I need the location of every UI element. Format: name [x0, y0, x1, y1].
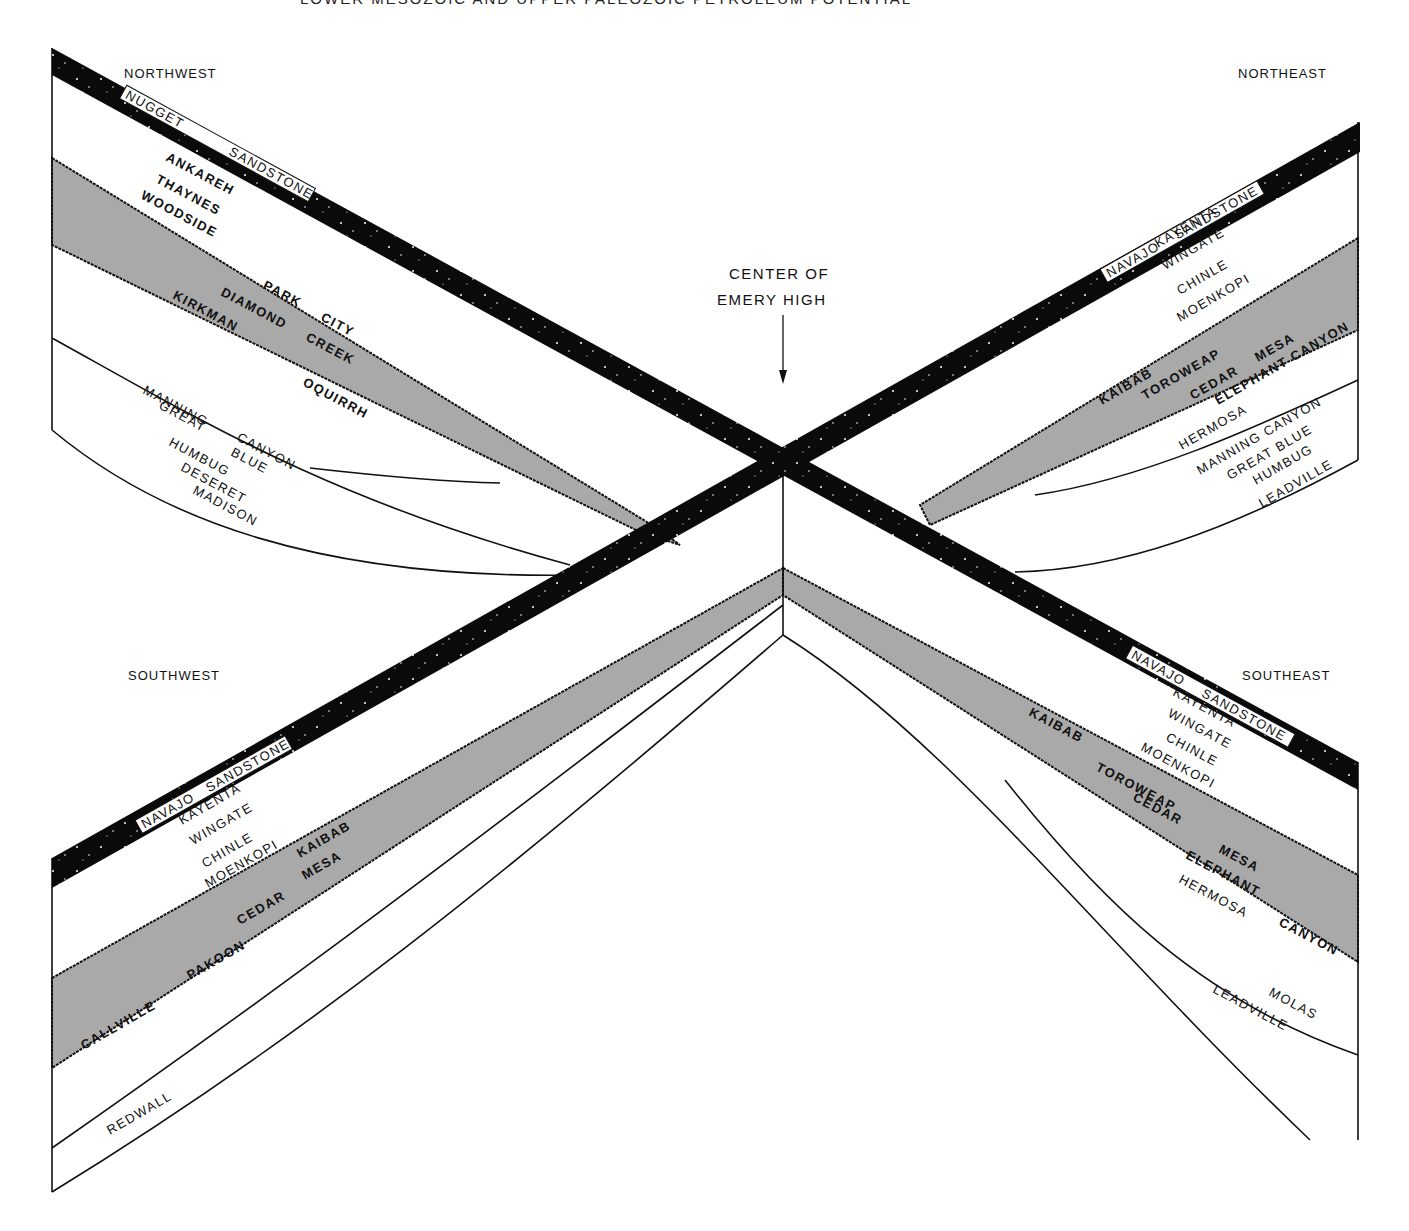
sw-marker-word2: SANDSTONE	[203, 736, 292, 795]
label-northwest: NORTHWEST	[124, 66, 217, 81]
ne-upper-labels: KAYENTA WINGATE CHINLE MOENKOPI	[1152, 203, 1253, 325]
label-southeast: SOUTHEAST	[1242, 668, 1330, 683]
ne-lower-labels: HERMOSA MANNING CANYON GREAT BLUE HUMBUG…	[1176, 394, 1335, 511]
center-label-line1: CENTER OF	[729, 265, 829, 282]
nw-manning-line	[310, 468, 500, 483]
label-southwest: SOUTHWEST	[128, 668, 220, 683]
center-label-line2: EMERY HIGH	[717, 291, 826, 308]
center-arrow-icon	[779, 315, 787, 384]
sw-label-redwall: REDWALL	[104, 1088, 175, 1137]
sw-lower-labels: REDWALL	[104, 1088, 175, 1137]
emery-high-fence-diagram: NUGGET SANDSTONE NAVAJO SANDSTONE NAVAJO…	[0, 0, 1409, 1231]
nw-lower-labels: MANNING CANYON GREAT BLUE HUMBUG DESERET…	[141, 382, 299, 529]
label-northeast: NORTHEAST	[1238, 66, 1327, 81]
northwest-panel	[52, 48, 680, 575]
sw-redwall-top	[52, 605, 783, 1148]
southeast-panel	[783, 568, 1358, 1140]
